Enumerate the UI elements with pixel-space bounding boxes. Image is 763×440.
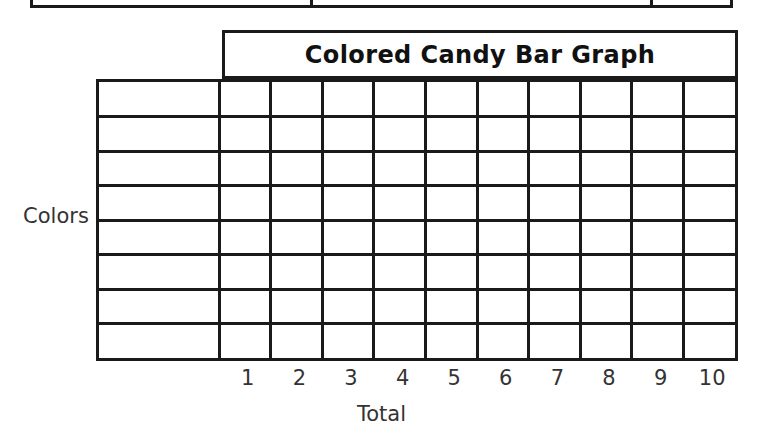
graph-cell[interactable] (529, 82, 578, 114)
graph-cell[interactable] (219, 82, 268, 114)
graph-cell[interactable] (271, 324, 320, 356)
graph-cell[interactable] (425, 117, 474, 149)
graph-cell[interactable] (322, 117, 371, 149)
color-label-cell[interactable] (99, 82, 216, 114)
graph-cell[interactable] (683, 289, 732, 321)
graph-cell[interactable] (529, 324, 578, 356)
graph-cell[interactable] (632, 82, 681, 114)
graph-cell[interactable] (425, 324, 474, 356)
graph-cell[interactable] (271, 151, 320, 183)
graph-cell[interactable] (580, 220, 629, 252)
graph-cell[interactable] (632, 255, 681, 287)
x-axis-tick-label: 7 (532, 366, 584, 390)
graph-cell[interactable] (477, 82, 526, 114)
x-axis-tick-label: 10 (686, 366, 738, 390)
graph-cell[interactable] (425, 220, 474, 252)
graph-cell[interactable] (477, 117, 526, 149)
graph-cell[interactable] (322, 289, 371, 321)
graph-cell[interactable] (322, 186, 371, 218)
graph-cell[interactable] (683, 220, 732, 252)
color-label-cell[interactable] (99, 117, 216, 149)
graph-cell[interactable] (477, 255, 526, 287)
graph-cell[interactable] (374, 255, 423, 287)
graph-cell[interactable] (529, 186, 578, 218)
graph-cell[interactable] (529, 255, 578, 287)
graph-cell[interactable] (580, 289, 629, 321)
graph-cell[interactable] (219, 117, 268, 149)
graph-cell[interactable] (580, 186, 629, 218)
graph-cell[interactable] (529, 151, 578, 183)
x-axis-tick-label: 9 (635, 366, 687, 390)
graph-cell[interactable] (632, 117, 681, 149)
graph-cell[interactable] (425, 82, 474, 114)
x-axis-tick-label: 5 (428, 366, 480, 390)
graph-cell[interactable] (219, 220, 268, 252)
graph-cell[interactable] (374, 220, 423, 252)
color-label-cell[interactable] (99, 255, 216, 287)
graph-cell[interactable] (374, 289, 423, 321)
graph-cell[interactable] (580, 117, 629, 149)
color-label-cell[interactable] (99, 186, 216, 218)
color-label-cell[interactable] (99, 151, 216, 183)
graph-cell[interactable] (477, 151, 526, 183)
top-table-fragment (30, 0, 733, 8)
x-axis-tick-label: 4 (377, 366, 429, 390)
graph-cell[interactable] (374, 151, 423, 183)
y-axis-label: Colors (18, 204, 94, 228)
x-axis-tick-label: 3 (325, 366, 377, 390)
graph-cell[interactable] (374, 186, 423, 218)
graph-cell[interactable] (477, 289, 526, 321)
graph-cell[interactable] (683, 82, 732, 114)
color-label-cell[interactable] (99, 324, 216, 356)
graph-cell[interactable] (425, 289, 474, 321)
graph-cell[interactable] (322, 324, 371, 356)
graph-cell[interactable] (374, 324, 423, 356)
graph-cell[interactable] (632, 324, 681, 356)
graph-cell[interactable] (322, 220, 371, 252)
x-axis-tick-row: 12345678910 (222, 366, 738, 392)
graph-cell[interactable] (374, 82, 423, 114)
graph-cell[interactable] (271, 186, 320, 218)
graph-cell[interactable] (271, 220, 320, 252)
graph-cell[interactable] (529, 117, 578, 149)
graph-cell[interactable] (529, 220, 578, 252)
graph-cell[interactable] (632, 220, 681, 252)
graph-cell[interactable] (683, 186, 732, 218)
graph-cell[interactable] (632, 289, 681, 321)
graph-cell[interactable] (477, 324, 526, 356)
graph-cell[interactable] (580, 255, 629, 287)
graph-cell[interactable] (425, 151, 474, 183)
graph-cell[interactable] (580, 151, 629, 183)
graph-cell[interactable] (271, 289, 320, 321)
graph-cell[interactable] (322, 255, 371, 287)
graph-cell[interactable] (271, 117, 320, 149)
color-label-cell[interactable] (99, 220, 216, 252)
graph-cell[interactable] (683, 117, 732, 149)
color-label-cell[interactable] (99, 289, 216, 321)
graph-cell[interactable] (632, 151, 681, 183)
graph-cell[interactable] (477, 186, 526, 218)
graph-cell[interactable] (529, 289, 578, 321)
graph-cell[interactable] (374, 117, 423, 149)
graph-cell[interactable] (271, 255, 320, 287)
graph-cell[interactable] (580, 324, 629, 356)
graph-cell[interactable] (271, 82, 320, 114)
graph-cell[interactable] (322, 82, 371, 114)
graph-cell[interactable] (219, 289, 268, 321)
graph-cell[interactable] (683, 255, 732, 287)
bar-graph-grid[interactable] (96, 79, 738, 361)
graph-cell[interactable] (322, 151, 371, 183)
graph-cell[interactable] (683, 324, 732, 356)
graph-cell[interactable] (477, 220, 526, 252)
graph-cell[interactable] (219, 324, 268, 356)
x-axis-tick-label: 2 (274, 366, 326, 390)
graph-cell[interactable] (425, 255, 474, 287)
graph-cell[interactable] (632, 186, 681, 218)
graph-cell[interactable] (683, 151, 732, 183)
graph-cell[interactable] (580, 82, 629, 114)
x-axis-label: Total (0, 402, 763, 426)
graph-cell[interactable] (219, 151, 268, 183)
graph-cell[interactable] (219, 186, 268, 218)
graph-cell[interactable] (219, 255, 268, 287)
graph-cell[interactable] (425, 186, 474, 218)
